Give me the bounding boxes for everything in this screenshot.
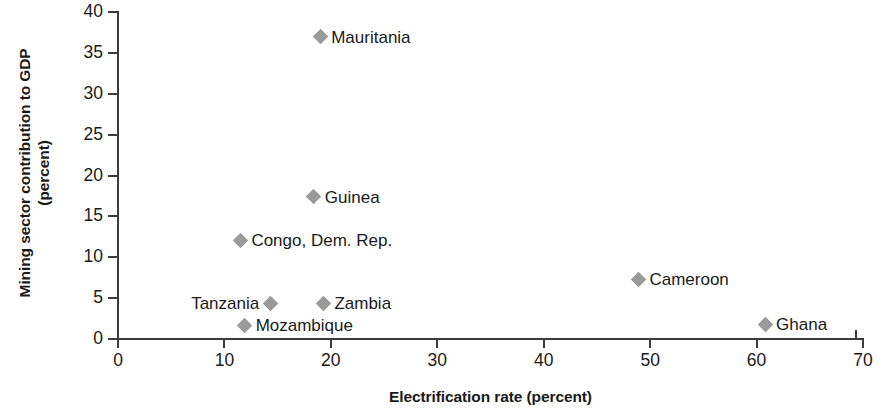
x-tick-label: 10 — [194, 352, 254, 370]
data-point-label: Mozambique — [256, 317, 353, 334]
data-point-label: Guinea — [325, 189, 380, 206]
x-tick-label: 0 — [88, 352, 148, 370]
data-point-marker[interactable] — [237, 317, 253, 333]
x-tick-mark — [223, 338, 225, 348]
y-tick-label: 25 — [0, 126, 103, 144]
x-tick-label: 50 — [620, 352, 680, 370]
y-tick-label: 0 — [0, 330, 103, 348]
y-tick-label: 15 — [0, 207, 103, 225]
x-tick-mark — [649, 338, 651, 348]
data-point-label: Mauritania — [331, 29, 410, 46]
y-tick-mark — [108, 297, 117, 299]
x-tick-mark — [862, 338, 864, 348]
y-tick-mark — [108, 215, 117, 217]
x-axis-line — [117, 338, 864, 340]
data-point-label: Cameroon — [649, 271, 728, 288]
x-axis-end-cap — [855, 330, 857, 340]
y-tick-label: 40 — [0, 3, 103, 21]
y-tick-mark — [108, 11, 117, 13]
x-tick-mark — [756, 338, 758, 348]
y-tick-mark — [108, 93, 117, 95]
data-point-label: Ghana — [776, 316, 827, 333]
data-point-marker[interactable] — [631, 272, 647, 288]
data-point-label: Congo, Dem. Rep. — [251, 232, 392, 249]
data-point-label: Tanzania — [191, 295, 259, 312]
data-point-marker[interactable] — [757, 317, 773, 333]
y-tick-mark — [108, 175, 117, 177]
y-axis-line — [117, 11, 119, 340]
data-point-marker[interactable] — [262, 295, 278, 311]
data-point-marker[interactable] — [306, 189, 322, 205]
x-tick-mark — [330, 338, 332, 348]
data-point-label: Zambia — [334, 295, 391, 312]
x-tick-label: 20 — [301, 352, 361, 370]
y-tick-label: 10 — [0, 248, 103, 266]
y-tick-mark — [108, 52, 117, 54]
y-tick-mark — [108, 256, 117, 258]
x-tick-label: 70 — [833, 352, 887, 370]
x-tick-mark — [436, 338, 438, 348]
y-tick-mark — [108, 338, 117, 340]
x-tick-label: 30 — [407, 352, 467, 370]
y-tick-label: 5 — [0, 289, 103, 307]
y-tick-label: 30 — [0, 85, 103, 103]
y-tick-mark — [108, 134, 117, 136]
data-point-marker[interactable] — [312, 29, 328, 45]
data-point-marker[interactable] — [316, 295, 332, 311]
x-axis-title: Electrification rate (percent) — [118, 388, 863, 406]
y-tick-label: 35 — [0, 44, 103, 62]
x-tick-mark — [543, 338, 545, 348]
y-tick-label: 20 — [0, 167, 103, 185]
x-tick-mark — [117, 338, 119, 348]
scatter-chart: Mining sector contribution to GDP (perce… — [0, 0, 887, 418]
x-tick-label: 60 — [727, 352, 787, 370]
data-point-marker[interactable] — [233, 232, 249, 248]
x-tick-label: 40 — [514, 352, 574, 370]
